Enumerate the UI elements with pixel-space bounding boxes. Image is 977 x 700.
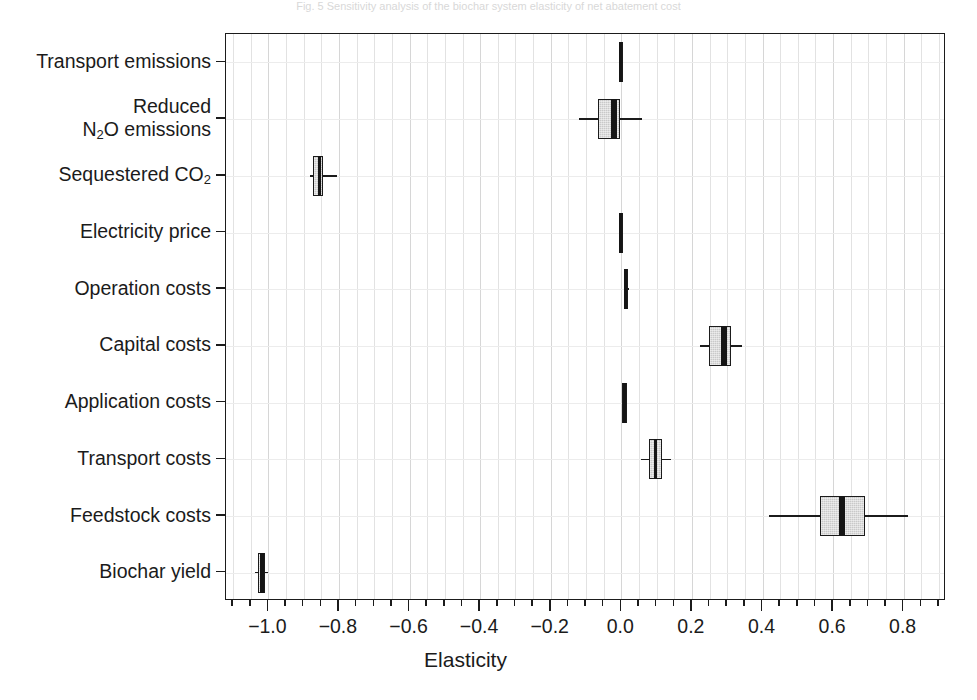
median-line [623, 383, 626, 423]
x-axis-tick-major [620, 600, 622, 611]
median-line [619, 42, 622, 82]
x-axis-tick-minor [884, 600, 886, 606]
x-axis-tick-major [408, 600, 410, 611]
x-axis-tick-minor [284, 600, 286, 606]
x-axis-tick-label: −1.0 [248, 615, 287, 637]
median-line [839, 496, 845, 536]
grid-line-horizontal [226, 289, 944, 290]
x-axis-tick-minor [425, 600, 427, 606]
x-axis-tick-minor [602, 600, 604, 606]
cut-off-caption: Fig. 5 Sensitivity analysis of the bioch… [0, 0, 977, 14]
grid-line-horizontal [226, 459, 944, 460]
x-axis-tick-label: 0.0 [607, 615, 634, 637]
x-axis-tick-major [337, 600, 339, 611]
y-axis-label-reduced-n2o-emissions: ReducedN2O emissions [0, 95, 211, 146]
x-axis-tick-label: 0.8 [889, 615, 916, 637]
median-line [318, 156, 321, 196]
x-axis-tick-minor [778, 600, 780, 606]
x-axis-title: Elasticity [0, 648, 977, 672]
y-axis-tick [216, 61, 225, 63]
grid-line-horizontal [226, 403, 944, 404]
grid-line-horizontal [226, 346, 944, 347]
x-axis-tick-minor [584, 600, 586, 606]
x-axis-tick-minor [355, 600, 357, 606]
y-axis-label-sequestered-co2: Sequestered CO2 [0, 163, 211, 191]
x-axis-tick-minor [461, 600, 463, 606]
x-axis-title-text: Elasticity [424, 648, 507, 672]
whisker-upper [628, 288, 629, 290]
x-axis-tick-minor [867, 600, 869, 606]
median-line [654, 439, 658, 479]
y-axis-tick [216, 174, 225, 176]
median-line [260, 553, 263, 593]
whisker-upper [265, 572, 268, 574]
x-axis-tick-minor [655, 600, 657, 606]
median-line [721, 326, 727, 366]
x-axis-tick-minor [743, 600, 745, 606]
whisker-lower [700, 345, 709, 347]
x-axis-tick-label: −0.2 [530, 615, 569, 637]
y-axis-label-transport-emissions: Transport emissions [0, 50, 211, 73]
y-axis-label-biochar-yield: Biochar yield [0, 560, 211, 583]
y-axis-tick [216, 344, 225, 346]
x-axis-tick-minor [920, 600, 922, 606]
y-axis-tick [216, 514, 225, 516]
x-axis-tick-major [478, 600, 480, 611]
x-axis-tick-major [549, 600, 551, 611]
whisker-upper [620, 118, 642, 120]
y-axis-tick [216, 231, 225, 233]
x-axis-tick-minor [302, 600, 304, 606]
grid-line-horizontal [226, 62, 944, 63]
y-axis-tick [216, 401, 225, 403]
x-axis-tick-minor [849, 600, 851, 606]
median-line [611, 99, 617, 139]
x-axis-tick-major [267, 600, 269, 611]
whisker-upper [865, 515, 908, 517]
y-axis-label-electricity-price: Electricity price [0, 220, 211, 243]
whisker-lower [641, 459, 650, 461]
x-axis-tick-major [761, 600, 763, 611]
x-axis-tick-minor [531, 600, 533, 606]
x-axis-tick-label: 0.2 [677, 615, 704, 637]
x-axis-tick-minor [637, 600, 639, 606]
plot-area [225, 33, 945, 600]
whisker-lower [769, 515, 821, 517]
x-axis-tick-minor [443, 600, 445, 606]
whisker-upper [323, 175, 337, 177]
x-axis-tick-minor [373, 600, 375, 606]
x-axis-tick-minor [814, 600, 816, 606]
whisker-upper [662, 459, 671, 461]
x-axis-tick-minor [673, 600, 675, 606]
x-axis-tick-minor [390, 600, 392, 606]
y-axis-label-application-costs: Application costs [0, 390, 211, 413]
grid-line-horizontal [226, 573, 944, 574]
median-line [619, 213, 622, 253]
y-axis-label-capital-costs: Capital costs [0, 333, 211, 356]
x-axis-tick-label: 0.4 [748, 615, 775, 637]
whisker-upper [731, 345, 742, 347]
x-axis-tick-minor [725, 600, 727, 606]
y-axis-tick [216, 458, 225, 460]
y-axis-label-feedstock-costs: Feedstock costs [0, 504, 211, 527]
x-axis-tick-label: −0.6 [389, 615, 428, 637]
x-axis-tick-label: −0.8 [319, 615, 358, 637]
x-axis-tick-minor [231, 600, 233, 606]
x-axis-tick-minor [708, 600, 710, 606]
figure-page: Fig. 5 Sensitivity analysis of the bioch… [0, 0, 977, 700]
x-axis-tick-major [831, 600, 833, 611]
median-line [624, 269, 627, 309]
y-axis-label-transport-costs: Transport costs [0, 447, 211, 470]
x-axis-tick-minor [796, 600, 798, 606]
x-axis-tick-major [690, 600, 692, 611]
x-axis-tick-minor [514, 600, 516, 606]
grid-line-horizontal [226, 233, 944, 234]
y-axis-label-operation-costs: Operation costs [0, 277, 211, 300]
x-axis-tick-minor [937, 600, 939, 606]
y-axis-tick [216, 287, 225, 289]
x-axis-tick-label: 0.6 [819, 615, 846, 637]
x-axis-tick-minor [320, 600, 322, 606]
x-axis-tick-minor [249, 600, 251, 606]
y-axis-tick [216, 571, 225, 573]
x-axis-tick-major [902, 600, 904, 611]
x-axis-tick-label: −0.4 [460, 615, 499, 637]
